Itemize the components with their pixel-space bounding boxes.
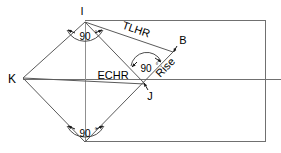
point-label-I: I	[80, 5, 83, 17]
segment-label-TLHR: TLHR	[121, 19, 152, 40]
point-label-J: J	[147, 90, 153, 102]
pointer-arrow-J	[144, 83, 148, 90]
segment-K-S	[23, 78, 85, 142]
angle-arrow-middle-left	[132, 62, 137, 67]
angle-degree-symbol-bottom: °	[95, 127, 98, 134]
point-label-K: K	[8, 72, 16, 86]
point-label-B: B	[179, 34, 186, 46]
segment-I-K	[23, 22, 85, 78]
angle-label-top: 90	[79, 31, 91, 42]
angle-marker-top: 90 °	[67, 30, 103, 42]
geometry-diagram: 90 ° 90 ° 90 ° I B J K TLH	[0, 0, 281, 153]
angle-marker-bottom: 90 °	[67, 126, 104, 139]
outer-rectangle	[85, 20, 266, 142]
angle-degree-symbol-top: °	[95, 30, 98, 37]
segment-label-ECHR: ECHR	[97, 69, 128, 81]
angle-label-middle: 90	[140, 63, 152, 74]
pointer-arrow-B	[174, 46, 178, 52]
angle-label-bottom: 90	[79, 128, 91, 139]
diagram-canvas: 90 ° 90 ° 90 ° I B J K TLH	[0, 0, 281, 153]
